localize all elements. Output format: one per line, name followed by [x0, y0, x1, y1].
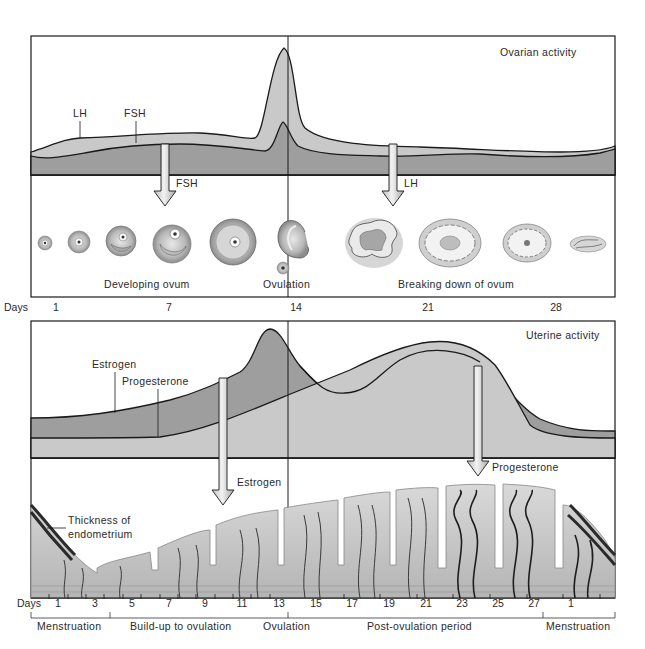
- uterine-activity-title: Uterine activity: [526, 329, 600, 341]
- day-tick: 13: [273, 597, 285, 609]
- day-tick: 21: [422, 301, 434, 313]
- estrogen-label: Estrogen: [92, 358, 136, 370]
- endometrium-label-line-2: endometrium: [68, 528, 133, 540]
- endometrium-label-line-1: Thickness of: [68, 514, 131, 526]
- estrogen-arrow-label: Estrogen: [237, 476, 281, 488]
- developing-ovum-label: Developing ovum: [104, 278, 190, 290]
- day-tick: 7: [166, 597, 172, 609]
- day-tick: 21: [420, 597, 432, 609]
- follicle-stage-4-icon: [153, 225, 191, 263]
- fsh-arrow-label: FSH: [176, 177, 198, 189]
- day-tick: 17: [346, 597, 358, 609]
- ovarian-activity-title: Ovarian activity: [500, 46, 577, 58]
- day-tick: 3: [92, 597, 98, 609]
- menstrual-cycle-diagram: LH FSH Ovarian activity FSH LH: [0, 0, 645, 649]
- day-tick: 1: [55, 597, 61, 609]
- follicle-stage-5-icon: [210, 219, 256, 265]
- axis-prefix-days: Days: [17, 597, 41, 609]
- fsh-label: FSH: [124, 107, 146, 119]
- day-tick: 28: [550, 301, 562, 313]
- progesterone-label: Progesterone: [122, 375, 189, 387]
- corpus-albicans-icon: [570, 236, 606, 252]
- uterine-panel: Estrogen Progesterone Uterine activity: [31, 321, 615, 598]
- follicle-stage-3-icon: [106, 226, 136, 256]
- day-tick: 15: [310, 597, 322, 609]
- lh-arrow-label: LH: [404, 177, 418, 189]
- corpus-luteum-stage-2-icon: [419, 219, 481, 267]
- day-tick: 25: [492, 597, 504, 609]
- axis-prefix-days: Days: [4, 301, 28, 313]
- corpus-luteum-stage-3-icon: [503, 224, 551, 262]
- progesterone-arrow-label: Progesterone: [492, 461, 559, 473]
- phase-label: Post-ovulation period: [367, 620, 472, 632]
- ovulation-stage-label: Ovulation: [263, 278, 310, 290]
- day-tick: 27: [528, 597, 540, 609]
- follicle-stage-2-icon: [68, 231, 90, 253]
- ovarian-day-axis: Days 1 7 14 21 28: [4, 301, 562, 313]
- ovarian-panel: LH FSH Ovarian activity FSH LH: [31, 36, 615, 297]
- day-tick: 1: [53, 301, 59, 313]
- day-tick: 23: [456, 597, 468, 609]
- day-tick: 1: [568, 597, 574, 609]
- phase-label: Menstruation: [546, 620, 610, 632]
- day-tick: 19: [383, 597, 395, 609]
- corpus-luteum-stage-1-icon: [345, 218, 403, 268]
- phase-label: Ovulation: [263, 620, 310, 632]
- phase-brackets: [31, 612, 615, 618]
- day-tick: 9: [202, 597, 208, 609]
- day-tick: 7: [166, 301, 172, 313]
- day-tick: 14: [290, 301, 302, 313]
- day-tick: 5: [129, 597, 135, 609]
- day-tick: 11: [237, 597, 248, 609]
- lh-label: LH: [73, 107, 87, 119]
- breaking-down-label: Breaking down of ovum: [398, 278, 514, 290]
- follicle-stage-1-icon: [38, 236, 52, 250]
- uterine-day-axis: Days 1 3 5 7 9 11 13 15 17 19 21 23 25 2…: [17, 594, 615, 632]
- phase-label: Build-up to ovulation: [130, 620, 231, 632]
- phase-label: Menstruation: [37, 620, 101, 632]
